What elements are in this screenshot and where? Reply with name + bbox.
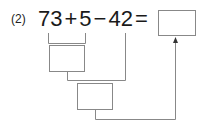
connector-box1-42 <box>68 33 126 81</box>
bracket-73-5 <box>49 33 86 44</box>
connector-lines <box>0 0 203 131</box>
arrow-up-icon <box>173 37 178 43</box>
